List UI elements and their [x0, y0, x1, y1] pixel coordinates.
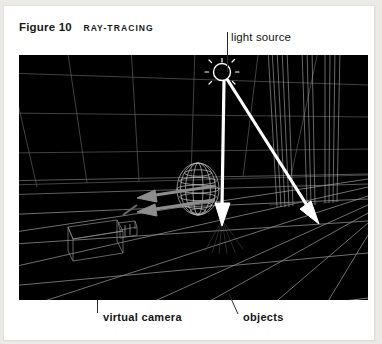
virtual-camera-leader-line: [97, 300, 98, 313]
light-source-leader-line: [227, 32, 228, 72]
virtual-camera-label: virtual camera: [103, 311, 182, 323]
ray-tracing-scene-image: [19, 55, 368, 300]
light-source-label: light source: [231, 31, 291, 43]
figure-number: Figure 10: [19, 21, 72, 33]
figure-caption: Figure 10 RAY-TRACING: [19, 17, 154, 35]
objects-leader-line: [228, 293, 244, 315]
figure-page: Figure 10 RAY-TRACING: [0, 0, 382, 344]
figure-subject: RAY-TRACING: [83, 23, 153, 33]
paper-edge-right: [374, 6, 377, 340]
objects-label: objects: [243, 311, 284, 323]
paper-edge-bottom: [4, 340, 377, 343]
